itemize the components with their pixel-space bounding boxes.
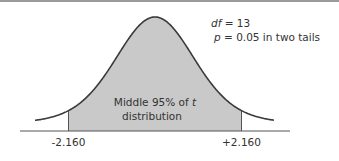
annotation-p: p = 0.05 in two tails — [213, 31, 320, 43]
p-value: = 0.05 in two tails — [221, 31, 320, 43]
region-label-line1: Middle 95% of t — [114, 96, 197, 108]
t-distribution-chart: -2.160 +2.160 Middle 95% of t distributi… — [0, 0, 339, 161]
region-label-line2: distribution — [122, 110, 182, 122]
annotation-df: df = 13 — [211, 17, 250, 29]
tick-label-right: +2.160 — [222, 136, 261, 148]
tick-label-left: -2.160 — [52, 136, 86, 148]
region-label-text: Middle 95% of — [114, 96, 192, 108]
df-value: = 13 — [221, 17, 250, 29]
